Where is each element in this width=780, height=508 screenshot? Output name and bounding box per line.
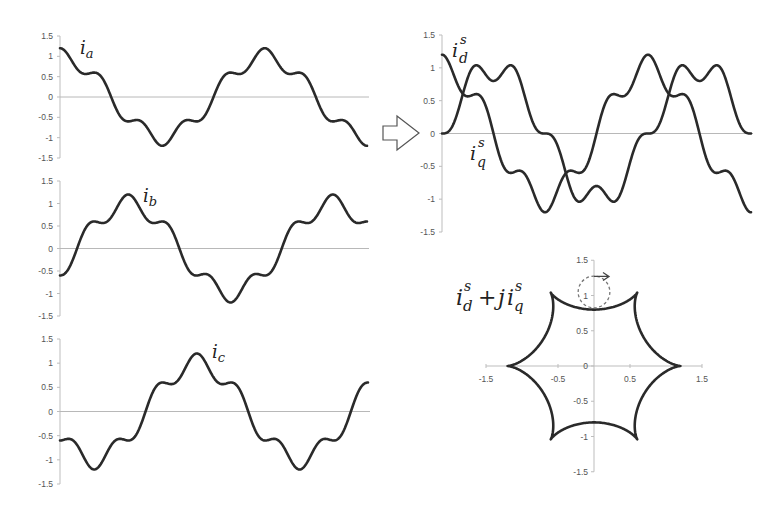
y-tick-label: -1.5 (38, 153, 53, 163)
y-tick-label: 1.5 (576, 255, 588, 265)
y-tick-label: -1 (580, 432, 588, 442)
figure-canvas: 1.510.50-0.5-1-1.5 1.510.50-0.5-1-1.5 1.… (0, 0, 780, 508)
x-tick-label: 0.5 (624, 374, 636, 384)
label-id: i s d (452, 32, 468, 66)
label-iq: i s q (470, 135, 486, 170)
y-tick-label: -0.5 (38, 266, 53, 276)
svg-text:d: d (459, 50, 468, 66)
svg-text:s: s (464, 278, 471, 294)
y-tick-label: 1 (48, 199, 53, 209)
svg-text:i: i (452, 39, 458, 61)
y-tick-label: 1 (583, 291, 588, 301)
label-ic: ic (212, 341, 226, 365)
y-tick-label: -1 (427, 194, 435, 204)
y-tick-label: -1.5 (420, 227, 435, 237)
svg-text:i: i (456, 285, 463, 310)
y-tick-label: -1.5 (573, 467, 588, 477)
y-tick-label: 0 (48, 244, 53, 254)
x-tick-label: 1.5 (696, 374, 708, 384)
label-complex: i s d + j i s q (456, 278, 524, 315)
y-tick-label: 0.5 (576, 326, 588, 336)
y-tick-label: 0.5 (41, 221, 53, 231)
y-tick-label: -0.5 (38, 112, 53, 122)
x-tick-label: -0.5 (551, 374, 566, 384)
svg-text:q: q (477, 154, 486, 170)
transform-arrow-icon (383, 116, 419, 150)
y-tick-label: 1.5 (423, 30, 435, 40)
svg-text:q: q (514, 297, 524, 315)
y-tick-label: -0.5 (420, 161, 435, 171)
y-tick-label: 0 (430, 129, 435, 139)
rotation-arrow-icon (594, 272, 609, 280)
svg-text:s: s (478, 135, 485, 150)
y-tick-label: -1 (45, 133, 53, 143)
svg-text:s: s (460, 32, 467, 47)
svg-text:i: i (470, 142, 476, 164)
y-tick-label: -1.5 (38, 311, 53, 321)
y-tick-label: 1.5 (41, 31, 53, 41)
y-tick-label: 1 (48, 358, 53, 368)
y-tick-label: 1.5 (41, 334, 53, 344)
chart-ib: 1.510.50-0.5-1-1.5 (38, 176, 369, 321)
label-ib: ib (143, 185, 157, 209)
svg-text:i: i (507, 285, 514, 310)
x-tick-label: -1.5 (479, 374, 494, 384)
y-tick-label: -1 (45, 289, 53, 299)
svg-text:+: + (478, 285, 496, 310)
y-tick-label: -0.5 (573, 396, 588, 406)
y-tick-label: 0.5 (423, 96, 435, 106)
svg-text:d: d (463, 297, 473, 315)
y-tick-label: 1 (430, 63, 435, 73)
chart-dq: 1.510.50-0.5-1-1.5 (420, 30, 753, 237)
y-tick-label: 1.5 (41, 176, 53, 186)
y-tick-label: 1 (48, 51, 53, 61)
y-tick-label: 0 (48, 92, 53, 102)
y-tick-label: 0.5 (41, 72, 53, 82)
chart-ic: 1.510.50-0.5-1-1.5 (38, 334, 370, 489)
y-tick-label: -1.5 (38, 479, 53, 489)
y-tick-label: 0 (48, 407, 53, 417)
svg-text:s: s (515, 278, 522, 294)
label-ia: ia (80, 37, 94, 61)
y-tick-label: 0.5 (41, 382, 53, 392)
y-tick-label: -1 (45, 455, 53, 465)
y-tick-label: 0 (583, 361, 588, 371)
y-tick-label: -0.5 (38, 431, 53, 441)
